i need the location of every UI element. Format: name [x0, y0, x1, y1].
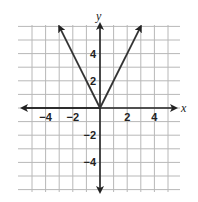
- y-tick-label: −4: [83, 156, 96, 168]
- y-axis-label: y: [95, 9, 102, 23]
- x-tick-label: 2: [124, 111, 130, 123]
- x-tick-label: −4: [39, 111, 52, 123]
- y-tick-label: 2: [90, 75, 96, 87]
- x-tick-label: 4: [151, 111, 158, 123]
- x-tick-label: −2: [67, 111, 80, 123]
- coordinate-plane: −4−22442−2−4 x y: [0, 0, 198, 202]
- x-axis-label: x: [180, 101, 187, 115]
- y-tick-label: −2: [83, 129, 96, 141]
- y-tick-label: 4: [90, 48, 97, 60]
